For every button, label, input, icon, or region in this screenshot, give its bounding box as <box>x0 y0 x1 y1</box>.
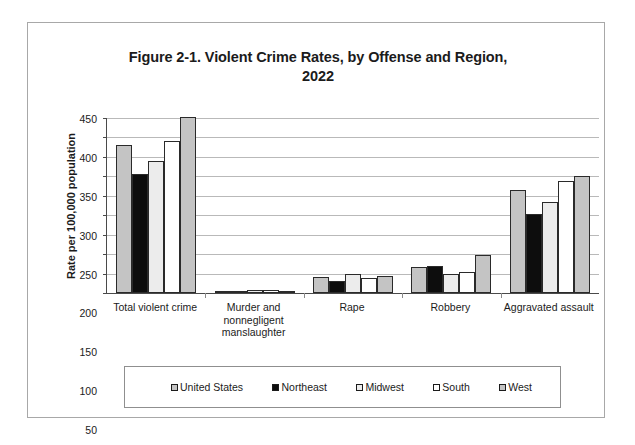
bar-group <box>304 118 402 293</box>
legend-swatch-icon <box>272 384 279 391</box>
bar <box>574 176 590 293</box>
x-axis-tick <box>304 293 305 298</box>
bar-group <box>501 118 599 293</box>
bar <box>361 278 377 293</box>
y-axis-tick-label: 450 <box>79 113 97 125</box>
chart-legend: United StatesNortheastMidwestSouthWest <box>124 366 561 408</box>
x-axis-tick <box>205 293 206 298</box>
legend-item-label: Midwest <box>365 381 404 393</box>
x-axis-label-line: manslaughter <box>204 326 302 339</box>
bar <box>279 291 295 293</box>
legend-item[interactable]: United States <box>171 381 243 393</box>
legend-item-label: United States <box>180 381 243 393</box>
x-axis-tick <box>501 293 502 298</box>
bar <box>215 291 231 293</box>
x-axis-label-line: Murder and <box>204 301 302 314</box>
legend-item[interactable]: Northeast <box>272 381 327 393</box>
bar-group <box>402 118 500 293</box>
chart-title: Figure 2-1. Violent Crime Rates, by Offe… <box>68 48 568 86</box>
bar-group <box>205 118 303 293</box>
bar <box>247 290 263 293</box>
chart-title-line-2: 2022 <box>68 67 568 86</box>
bar <box>443 274 459 293</box>
x-axis-label-line: Total violent crime <box>106 301 204 314</box>
bar <box>542 202 558 293</box>
plot-area: 050100150200250300350400450 <box>106 118 599 294</box>
bar <box>329 281 345 293</box>
bar <box>148 161 164 293</box>
x-axis-label-line: Aggravated assault <box>500 301 598 314</box>
x-axis-label: Rape <box>303 301 401 314</box>
figure-frame: Figure 2-1. Violent Crime Rates, by Offe… <box>27 22 605 418</box>
y-axis-title-text: Rate per 100,000 population <box>65 132 77 278</box>
bar <box>510 190 526 293</box>
bar <box>459 272 475 293</box>
x-axis-label: Robbery <box>401 301 499 314</box>
x-axis-label-line: nonnegligent <box>204 314 302 327</box>
x-axis-labels: Total violent crimeMurder andnonnegligen… <box>106 301 598 353</box>
x-axis-tick <box>402 293 403 298</box>
bar <box>526 214 542 293</box>
legend-item[interactable]: West <box>499 381 532 393</box>
legend-swatch-icon <box>499 384 506 391</box>
y-axis-tick-label: 200 <box>79 307 97 319</box>
x-axis-label: Aggravated assault <box>500 301 598 314</box>
bar <box>475 255 491 293</box>
legend-item-label: West <box>508 381 532 393</box>
bars-layer <box>107 118 599 293</box>
y-axis-tick-label: 300 <box>79 230 97 242</box>
x-axis-label-line: Rape <box>303 301 401 314</box>
x-axis-label: Total violent crime <box>106 301 204 314</box>
bar <box>377 276 393 294</box>
legend-swatch-icon <box>356 384 363 391</box>
y-axis-title: Rate per 100,000 population <box>64 118 78 293</box>
bar <box>263 290 279 293</box>
bar <box>231 291 247 293</box>
y-axis-tick-label: 400 <box>79 152 97 164</box>
bar <box>558 181 574 293</box>
bar <box>164 141 180 293</box>
legend-swatch-icon <box>171 384 178 391</box>
bar <box>116 145 132 293</box>
legend-item-label: South <box>442 381 469 393</box>
bar <box>427 266 443 293</box>
y-axis-tick-label: 150 <box>79 346 97 358</box>
y-axis-tick: 0 <box>103 293 107 294</box>
bar <box>180 117 196 293</box>
bar <box>411 267 427 293</box>
x-axis-label-line: Robbery <box>401 301 499 314</box>
bar <box>313 277 329 293</box>
legend-swatch-icon <box>433 384 440 391</box>
x-axis-label: Murder andnonnegligentmanslaughter <box>204 301 302 339</box>
y-axis-tick-label: 350 <box>79 191 97 203</box>
legend-item-label: Northeast <box>281 381 327 393</box>
y-axis-tick-label: 250 <box>79 269 97 281</box>
bar <box>345 274 361 293</box>
chart-title-line-1: Figure 2-1. Violent Crime Rates, by Offe… <box>129 49 508 65</box>
legend-item[interactable]: South <box>433 381 469 393</box>
bar <box>132 174 148 293</box>
y-axis-tick-label: 100 <box>79 385 97 397</box>
bar-group <box>107 118 205 293</box>
y-axis-tick-label: 50 <box>85 424 97 436</box>
legend-item[interactable]: Midwest <box>356 381 404 393</box>
